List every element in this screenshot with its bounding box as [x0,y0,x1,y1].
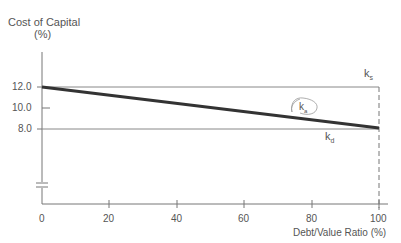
x-tick-label-60: 60 [238,214,249,224]
ka-line [42,87,379,128]
x-axis-title: Debt/Value Ratio (%) [293,228,386,238]
y-tick-label-10: 10.0 [12,103,31,113]
x-tick-label-80: 80 [306,214,317,224]
x-tick-label-0: 0 [39,214,45,224]
ks-label: ks [364,68,373,81]
ka-label: ka [299,102,307,114]
y-axis-title: Cost of Capital [8,17,80,28]
ka-label-sub: a [304,108,307,114]
y-tick-label-12: 12.0 [12,82,31,92]
y-tick-marks [37,87,50,129]
x-tick-label-100: 100 [370,214,387,224]
y-axis-unit: (%) [34,29,51,40]
ks-label-sub: s [370,74,374,81]
y-tick-label-8: 8.0 [18,124,32,134]
x-tick-label-20: 20 [103,214,114,224]
cost-of-capital-chart [0,0,401,243]
kd-label: kd [325,131,334,144]
x-tick-label-40: 40 [171,214,182,224]
kd-label-sub: d [331,137,335,144]
